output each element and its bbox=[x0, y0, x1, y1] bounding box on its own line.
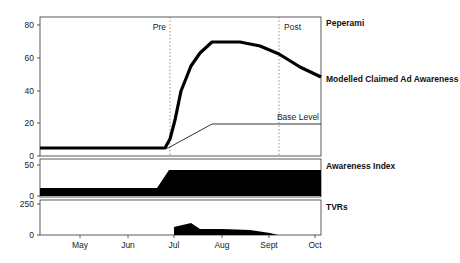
base-level-label: Base Level bbox=[277, 112, 319, 122]
y-tick-40: 40 bbox=[25, 86, 35, 96]
tvr-area bbox=[174, 223, 278, 235]
top-y-axis bbox=[37, 25, 40, 156]
bot-y-axis bbox=[37, 204, 40, 235]
post-label: Post bbox=[284, 22, 302, 32]
y-tick-80: 80 bbox=[25, 20, 35, 30]
top-panel-frame bbox=[40, 17, 321, 156]
bottom-panel-label: TVRs bbox=[326, 202, 348, 212]
top-panel-label: Modelled Claimed Ad Awareness bbox=[326, 74, 459, 84]
x-axis bbox=[80, 235, 315, 238]
awareness-index-area bbox=[40, 170, 321, 196]
bot-y-tick-250: 250 bbox=[20, 199, 34, 209]
x-tick-sept: Sept bbox=[260, 240, 278, 250]
x-tick-jun: Jun bbox=[121, 240, 135, 250]
bot-y-tick-0: 0 bbox=[29, 230, 34, 240]
mid-y-tick-50: 50 bbox=[25, 160, 35, 170]
x-tick-may: May bbox=[72, 240, 89, 250]
x-tick-jul: Jul bbox=[169, 240, 180, 250]
brand-title: Peperami bbox=[326, 18, 364, 28]
y-tick-60: 60 bbox=[25, 53, 35, 63]
x-tick-aug: Aug bbox=[214, 240, 229, 250]
chart-figure: 80 60 40 20 0 Pre Post Base Level 50 0 2… bbox=[0, 0, 460, 263]
pre-label: Pre bbox=[153, 22, 167, 32]
y-tick-20: 20 bbox=[25, 118, 35, 128]
middle-panel-label: Awareness Index bbox=[326, 161, 396, 171]
mid-y-axis bbox=[37, 165, 40, 196]
x-tick-oct: Oct bbox=[308, 240, 322, 250]
